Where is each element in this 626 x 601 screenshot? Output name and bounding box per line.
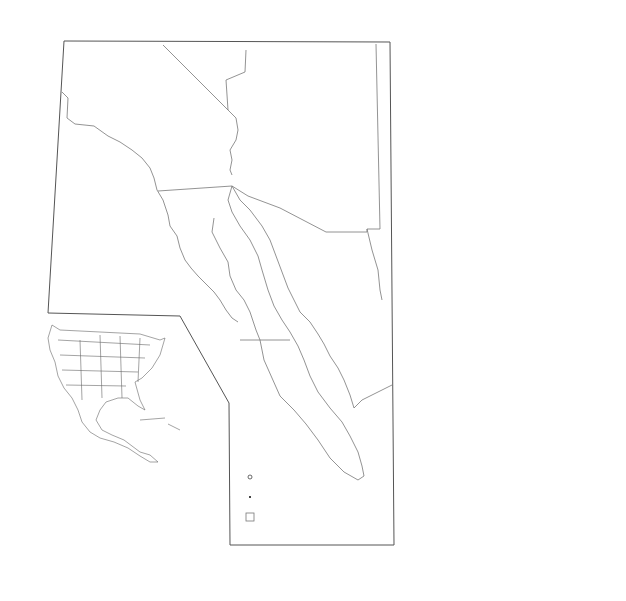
settlement-legend-symbol [246,513,254,521]
coastlines-and-borders [62,44,392,480]
map-legend [246,475,254,521]
sighting-legend-symbol [249,496,251,498]
inset-north-america-map [48,325,180,462]
map-frame [48,41,394,545]
voucher-legend-symbol [248,475,252,479]
species-distribution-map [0,0,626,601]
